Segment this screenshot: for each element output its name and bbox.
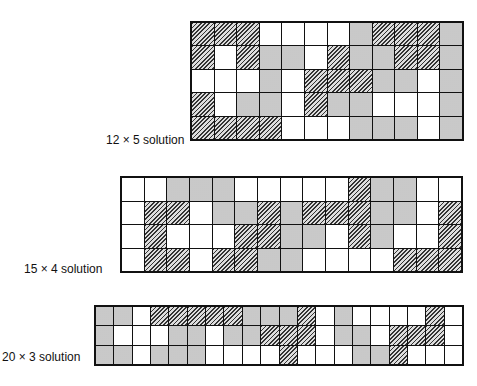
grid-cell xyxy=(237,23,259,45)
grid-cell xyxy=(349,225,371,248)
grid-20x3 xyxy=(94,305,464,366)
grid-cell xyxy=(408,307,425,325)
grid-cell xyxy=(440,93,462,115)
grid-cell xyxy=(445,326,462,344)
grid-cell xyxy=(371,178,393,201)
grid-cell xyxy=(206,326,223,344)
grid-cell xyxy=(122,225,144,248)
grid-cell xyxy=(326,249,348,272)
grid-cell xyxy=(326,178,348,201)
grid-cell xyxy=(440,70,462,92)
grid-cell xyxy=(96,346,113,364)
grid-cell xyxy=(371,346,388,364)
grid-cell xyxy=(328,93,350,115)
grid-cell xyxy=(237,93,259,115)
grid-cell xyxy=(439,225,461,248)
grid-cell xyxy=(260,117,282,139)
grid-cell xyxy=(326,225,348,248)
grid-cell xyxy=(192,117,214,139)
grid-cell xyxy=(258,225,280,248)
grid-cell xyxy=(282,70,304,92)
grid-cell xyxy=(281,178,303,201)
grid-cell xyxy=(190,225,212,248)
grid-cell xyxy=(305,117,327,139)
grid-cell xyxy=(243,346,260,364)
grid-cell xyxy=(215,23,237,45)
grid-cell xyxy=(305,70,327,92)
label-12x5: 12 × 5 solution xyxy=(106,133,184,147)
grid-cell xyxy=(371,326,388,344)
grid-cell xyxy=(114,346,131,364)
grid-cell xyxy=(439,249,461,272)
grid-cell xyxy=(258,249,280,272)
grid-cell xyxy=(167,178,189,201)
grid-cell xyxy=(426,307,443,325)
grid-cell xyxy=(350,46,372,68)
grid-cell xyxy=(282,46,304,68)
grid-cell xyxy=(237,70,259,92)
grid-cell xyxy=(133,307,150,325)
grid-cell xyxy=(215,70,237,92)
grid-cell xyxy=(114,326,131,344)
grid-cell xyxy=(213,202,235,225)
grid-cell xyxy=(169,326,186,344)
grid-cell xyxy=(335,346,352,364)
grid-cell xyxy=(145,249,167,272)
grid-cell xyxy=(145,202,167,225)
grid-cell xyxy=(328,117,350,139)
grid-cell xyxy=(417,202,439,225)
grid-cell xyxy=(445,346,462,364)
grid-cell xyxy=(235,225,257,248)
grid-cell xyxy=(237,117,259,139)
grid-cell xyxy=(353,307,370,325)
label-20x3: 20 × 3 solution xyxy=(2,350,80,364)
grid-cell xyxy=(213,225,235,248)
grid-cell xyxy=(282,93,304,115)
grid-cell xyxy=(96,307,113,325)
grid-cell xyxy=(440,46,462,68)
grid-cell xyxy=(188,346,205,364)
grid-cell xyxy=(417,178,439,201)
grid-cell xyxy=(349,202,371,225)
grid-cell xyxy=(390,346,407,364)
grid-cell xyxy=(395,70,417,92)
grid-cell xyxy=(133,326,150,344)
grid-cell xyxy=(213,249,235,272)
grid-cell xyxy=(235,249,257,272)
grid-cell xyxy=(349,249,371,272)
grid-cell xyxy=(282,23,304,45)
grid-cell xyxy=(316,346,333,364)
grid-cell xyxy=(281,249,303,272)
grid-cell xyxy=(316,326,333,344)
label-15x4: 15 × 4 solution xyxy=(24,262,102,276)
grid-cell xyxy=(151,346,168,364)
grid-cell xyxy=(328,70,350,92)
grid-cell xyxy=(303,249,325,272)
grid-cell xyxy=(394,249,416,272)
grid-cell xyxy=(371,249,393,272)
grid-cell xyxy=(122,178,144,201)
grid-cell xyxy=(373,93,395,115)
grid-12x5 xyxy=(190,21,464,141)
grid-cell xyxy=(151,307,168,325)
grid-15x4 xyxy=(120,176,463,273)
grid-cell xyxy=(349,178,371,201)
grid-cell xyxy=(224,346,241,364)
grid-cell xyxy=(439,178,461,201)
grid-cell xyxy=(260,46,282,68)
grid-cell xyxy=(418,70,440,92)
grid-cell xyxy=(418,117,440,139)
grid-cell xyxy=(350,93,372,115)
grid-cell xyxy=(258,202,280,225)
grid-cell xyxy=(260,23,282,45)
grid-cell xyxy=(224,326,241,344)
grid-cell xyxy=(303,178,325,201)
grid-cell xyxy=(394,225,416,248)
grid-cell xyxy=(371,225,393,248)
grid-cell xyxy=(426,346,443,364)
grid-cell xyxy=(353,326,370,344)
grid-cell xyxy=(335,326,352,344)
grid-cell xyxy=(280,346,297,364)
grid-cell xyxy=(167,249,189,272)
grid-cell xyxy=(395,93,417,115)
